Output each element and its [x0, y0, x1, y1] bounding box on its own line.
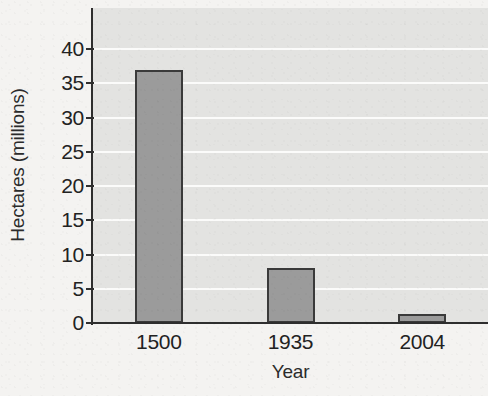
y-axis-tick-label: 10 [36, 243, 84, 267]
x-axis-tick-labels: 150019352004 [93, 330, 488, 360]
x-axis-tick-label: 1935 [268, 330, 314, 354]
y-axis-title: Hectares (millions) [0, 0, 36, 330]
y-axis-tick-label: 5 [36, 277, 84, 301]
y-axis-tick-label: 25 [36, 140, 84, 164]
bar [267, 268, 315, 323]
y-axis-tick-labels: 0510152025303540 [36, 0, 84, 340]
x-axis-tick-label: 1500 [136, 330, 182, 354]
bars-layer [93, 8, 488, 323]
x-axis-line [91, 322, 488, 324]
bar [135, 70, 183, 323]
y-axis-line [91, 8, 93, 325]
y-axis-tick-label: 30 [36, 106, 84, 130]
bar-chart-figure: Hectares (millions) 0510152025303540 150… [0, 0, 488, 396]
y-axis-tick-label: 15 [36, 208, 84, 232]
y-axis-tick-label: 35 [36, 71, 84, 95]
y-axis-tick-label: 20 [36, 174, 84, 198]
y-axis-title-text: Hectares (millions) [7, 88, 29, 242]
x-axis-tick-label: 2004 [399, 330, 445, 354]
y-axis-tick-label: 0 [36, 311, 84, 335]
x-axis-title: Year [93, 361, 488, 383]
y-axis-tick-label: 40 [36, 37, 84, 61]
